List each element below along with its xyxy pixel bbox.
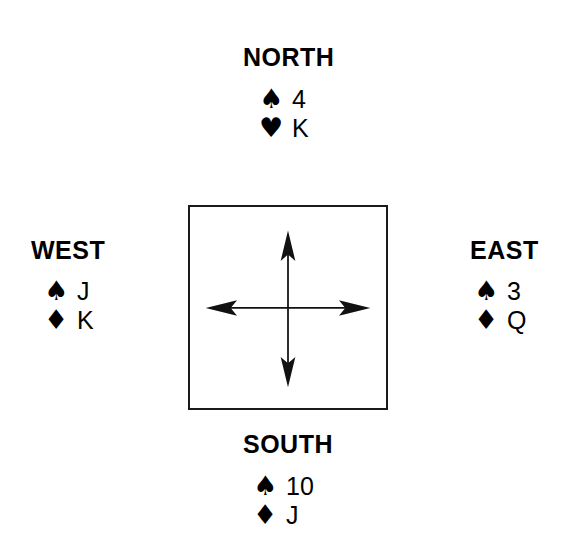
spade-icon: ♠ (44, 278, 68, 304)
card-rank: J (277, 502, 316, 528)
west-label: WEST (31, 238, 105, 263)
east-hand: ♠ 3 ♦ Q (474, 278, 537, 333)
card-rank: 4 (283, 86, 322, 112)
south-hand: ♠ 10 ♦ J (253, 473, 316, 528)
card-row: ♥ K (259, 115, 322, 141)
heart-icon: ♥ (259, 115, 283, 141)
card-row: ♦ J (253, 502, 316, 528)
north-hand: ♠ 4 ♥ K (259, 86, 322, 141)
spade-icon: ♠ (474, 278, 498, 304)
spade-icon: ♠ (253, 473, 277, 499)
west-hand: ♠ J ♦ K (44, 278, 107, 333)
card-rank: Q (498, 307, 537, 333)
card-row: ♦ Q (474, 307, 537, 333)
card-rank: J (68, 278, 107, 304)
card-rank: 3 (498, 278, 537, 304)
direction-arrow-cross (190, 207, 386, 408)
north-label: NORTH (243, 45, 334, 70)
card-row: ♠ J (44, 278, 107, 304)
diamond-icon: ♦ (474, 307, 498, 333)
card-row: ♠ 3 (474, 278, 537, 304)
card-rank: K (283, 115, 322, 141)
card-rank: K (68, 307, 107, 333)
east-label: EAST (470, 238, 539, 263)
spade-icon: ♠ (259, 86, 283, 112)
card-row: ♦ K (44, 307, 107, 333)
diamond-icon: ♦ (44, 307, 68, 333)
compass-box (188, 205, 388, 410)
card-row: ♠ 4 (259, 86, 322, 112)
card-row: ♠ 10 (253, 473, 316, 499)
diamond-icon: ♦ (253, 502, 277, 528)
card-rank: 10 (277, 473, 316, 499)
bridge-hand-diagram: NORTH ♠ 4 ♥ K WEST ♠ J ♦ K EAST ♠ 3 ♦ Q (0, 0, 574, 557)
south-label: SOUTH (243, 432, 333, 457)
